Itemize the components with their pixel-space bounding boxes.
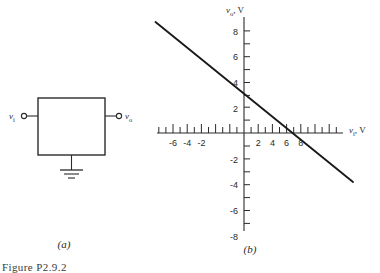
y-tick-label: 8 <box>233 27 238 37</box>
x-tick-label: 2 <box>256 138 261 148</box>
y-tick-label: -8 <box>230 232 238 242</box>
output-voltage-label: vo <box>125 111 132 123</box>
ground-symbol <box>60 170 83 178</box>
y-tick-label: 6 <box>233 52 238 62</box>
x-axis-label: vi, V <box>349 125 366 137</box>
panel-b-caption: (b) <box>244 243 257 256</box>
output-terminal-node <box>116 113 121 118</box>
x-tick-label: 4 <box>270 138 275 148</box>
panel-b-graph: -6 -4 -2 2 4 6 8 <box>156 5 367 256</box>
x-tick-label: 6 <box>284 138 289 148</box>
x-tick-label: -2 <box>197 138 205 148</box>
y-tick-labels: 8 6 4 2 -2 -4 -6 -8 <box>230 27 238 242</box>
panel-a-circuit: vi vo (a) <box>9 98 132 251</box>
y-tick-label: -6 <box>230 206 238 216</box>
input-terminal-node <box>21 113 26 118</box>
x-tick-label: -4 <box>183 138 191 148</box>
x-tick-labels: -6 -4 -2 2 4 6 8 <box>169 138 303 148</box>
figure-caption-label: Figure P2.9.2 <box>2 261 67 273</box>
panel-a-caption: (a) <box>58 238 71 251</box>
transfer-characteristic-line <box>156 22 354 182</box>
input-voltage-label: vi <box>9 111 15 123</box>
y-axis-label: vo, V <box>226 5 245 17</box>
y-tick-label: 2 <box>233 104 238 114</box>
y-tick-label: -4 <box>230 180 238 190</box>
y-tick-label: -2 <box>230 155 238 165</box>
two-port-block <box>38 98 105 155</box>
y-axis-ticks <box>244 31 250 224</box>
x-tick-label: -6 <box>169 138 177 148</box>
x-axis-ticks <box>159 124 336 133</box>
